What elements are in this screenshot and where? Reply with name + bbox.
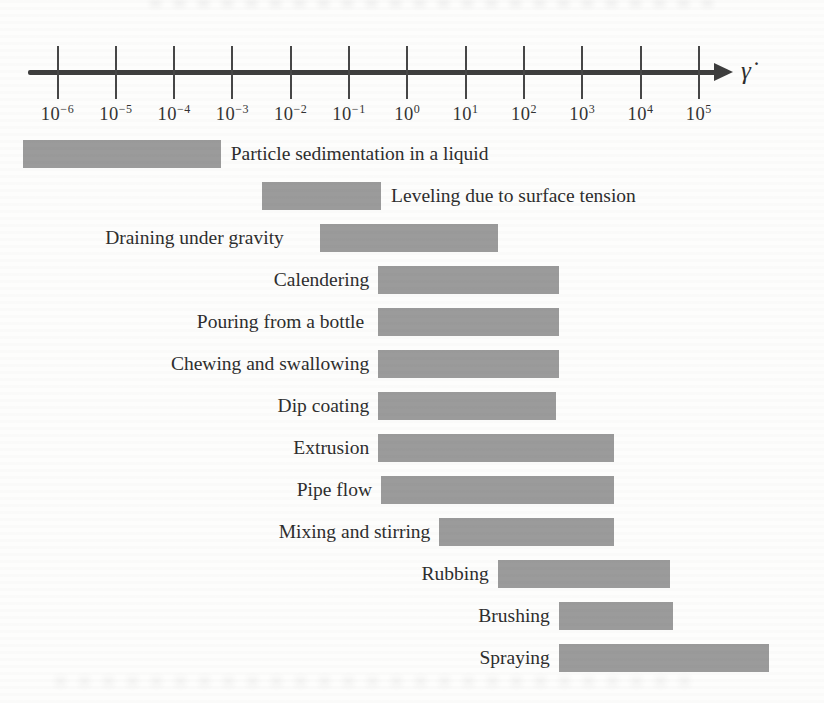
axis-tick-label: 103	[550, 102, 614, 125]
process-label: Dip coating	[0, 392, 369, 420]
axis-tick-label: 102	[492, 102, 556, 125]
process-bar	[378, 308, 559, 336]
process-label: Pouring from a bottle	[0, 308, 364, 336]
process-label: Chewing and swallowing	[0, 350, 369, 378]
process-bar	[498, 560, 670, 588]
axis-tick-label: 10−2	[259, 102, 323, 125]
axis-tick	[698, 46, 700, 99]
scanned-figure-page: γ̇ 10−610−510−410−310−210−11001011021031…	[0, 0, 824, 703]
axis-tick-label: 100	[375, 102, 439, 125]
axis-tick-label: 10−3	[200, 102, 264, 125]
process-label: Pipe flow	[0, 476, 372, 504]
process-bar	[378, 266, 559, 294]
axis-tick	[640, 46, 642, 99]
axis-tick	[173, 46, 175, 99]
axis-tick-label: 104	[609, 102, 673, 125]
process-label: Leveling due to surface tension	[391, 182, 636, 210]
axis-tick	[465, 46, 467, 99]
axis-tick-label: 10−5	[84, 102, 148, 125]
process-label: Calendering	[0, 266, 369, 294]
axis-tick-label: 10−4	[142, 102, 206, 125]
process-label: Brushing	[0, 602, 550, 630]
process-bar	[381, 476, 614, 504]
axis-symbol-gamma-dot: γ̇	[741, 56, 751, 86]
process-bar	[378, 434, 614, 462]
process-bar	[559, 644, 769, 672]
axis-tick	[290, 46, 292, 99]
process-label: Extrusion	[0, 434, 369, 462]
process-bar	[23, 140, 221, 168]
process-label: Draining under gravity	[0, 224, 284, 252]
process-label: Spraying	[0, 644, 550, 672]
axis-tick	[581, 46, 583, 99]
process-label: Particle sedimentation in a liquid	[231, 140, 489, 168]
axis-tick-label: 10−1	[317, 102, 381, 125]
axis-tick-label: 101	[434, 102, 498, 125]
process-bar	[320, 224, 498, 252]
axis-arrowhead-icon	[714, 63, 733, 81]
process-bar	[262, 182, 382, 210]
axis-tick	[523, 46, 525, 99]
shear-rate-axis-line	[28, 70, 720, 75]
axis-tick	[57, 46, 59, 99]
axis-tick-label: 105	[667, 102, 731, 125]
process-bar	[439, 518, 614, 546]
process-label: Mixing and stirring	[0, 518, 430, 546]
axis-tick	[231, 46, 233, 99]
print-showthrough-bottom	[55, 676, 695, 687]
axis-tick	[348, 46, 350, 99]
process-label: Rubbing	[0, 560, 489, 588]
process-bar	[378, 392, 556, 420]
axis-tick	[115, 46, 117, 99]
process-bar	[559, 602, 673, 630]
axis-tick	[406, 46, 408, 99]
process-bar	[378, 350, 559, 378]
print-showthrough-top	[150, 0, 715, 7]
axis-tick-label: 10−6	[26, 102, 90, 125]
